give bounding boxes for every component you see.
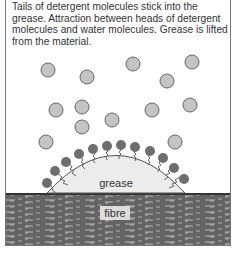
- water-molecule: [185, 55, 199, 69]
- water-molecules: [39, 55, 199, 149]
- water-molecule: [126, 57, 140, 71]
- water-molecule: [80, 70, 94, 84]
- water-molecule: [75, 100, 89, 114]
- fibre-label: fibre: [104, 207, 125, 219]
- water-molecule: [49, 103, 63, 117]
- water-molecule: [75, 120, 89, 134]
- water-molecule: [160, 74, 174, 88]
- water-molecule: [168, 135, 182, 149]
- water-molecule: [39, 135, 53, 149]
- water-molecule: [145, 103, 159, 117]
- water-molecule: [41, 63, 55, 77]
- water-molecule: [183, 98, 197, 112]
- detergent-diagram: fibre grease: [0, 0, 239, 258]
- grease-label: grease: [99, 177, 133, 189]
- water-molecule: [105, 113, 119, 127]
